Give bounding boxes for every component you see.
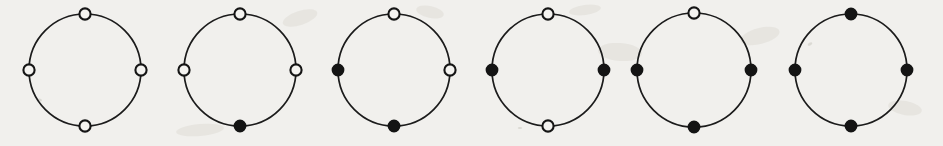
necklace-6-ring xyxy=(795,14,907,126)
necklace-3-ring xyxy=(338,14,450,126)
necklace-2-bead-right-white xyxy=(290,64,301,75)
necklace-5 xyxy=(631,7,756,132)
necklace-5-bead-right-black xyxy=(745,64,756,75)
paper-smudge-a xyxy=(281,6,320,30)
necklace-1-bead-right-white xyxy=(135,64,146,75)
necklace-6 xyxy=(789,8,912,131)
necklace-layer xyxy=(23,7,912,132)
necklace-2-bead-left-white xyxy=(178,64,189,75)
necklace-5-bead-top-white xyxy=(688,7,699,18)
necklace-1 xyxy=(23,8,146,131)
necklace-2-bead-top-white xyxy=(234,8,245,19)
necklace-4-bead-bottom-white xyxy=(542,120,553,131)
necklace-figure-canvas xyxy=(0,0,943,146)
necklace-2-bead-bottom-black xyxy=(234,120,245,131)
necklace-6-bead-top-black xyxy=(845,8,856,19)
necklace-5-ring xyxy=(637,13,751,127)
necklace-4-bead-top-white xyxy=(542,8,553,19)
necklace-6-bead-left-black xyxy=(789,64,800,75)
necklace-5-bead-bottom-black xyxy=(688,121,699,132)
necklace-3 xyxy=(332,8,455,131)
paper-fleck-a xyxy=(807,42,813,47)
necklace-4 xyxy=(486,8,609,131)
necklace-3-bead-top-white xyxy=(388,8,399,19)
necklace-3-bead-left-black xyxy=(332,64,343,75)
necklace-5-bead-left-black xyxy=(631,64,642,75)
necklace-figure xyxy=(0,0,943,146)
necklace-4-bead-left-black xyxy=(486,64,497,75)
necklace-3-bead-right-white xyxy=(444,64,455,75)
paper-smudge-c xyxy=(568,3,601,17)
necklace-4-bead-right-black xyxy=(598,64,609,75)
necklace-1-bead-bottom-white xyxy=(79,120,90,131)
necklace-1-ring xyxy=(29,14,141,126)
necklace-4-ring xyxy=(492,14,604,126)
necklace-1-bead-top-white xyxy=(79,8,90,19)
necklace-6-bead-bottom-black xyxy=(845,120,856,131)
necklace-6-bead-right-black xyxy=(901,64,912,75)
necklace-3-bead-bottom-black xyxy=(388,120,399,131)
necklace-2 xyxy=(178,8,301,131)
paper-fleck-c xyxy=(518,127,522,129)
paper-smudge-g xyxy=(176,122,225,138)
paper-smudge-d xyxy=(597,41,642,62)
necklace-1-bead-left-white xyxy=(23,64,34,75)
necklace-2-ring xyxy=(184,14,296,126)
paper-smudge-b xyxy=(415,3,445,21)
